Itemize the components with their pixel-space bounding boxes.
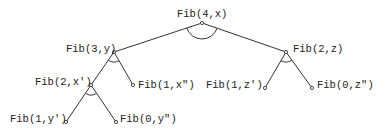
edge-n3-n7 [66,85,91,122]
tree-svg: Fib(4,x)Fib(3,y)Fib(2,z)Fib(2,x')Fib(1,x… [0,0,381,131]
node-dot-n0 [200,21,203,24]
node-dot-n6 [310,86,313,89]
node-label-n1: Fib(3,y) [66,43,116,55]
edges [66,23,312,122]
node-label-n4: Fib(1,x") [138,79,195,91]
edge-n3-n8 [91,85,116,122]
node-dot-n5 [263,86,266,89]
and-arc-n0 [187,28,217,39]
labels: Fib(4,x)Fib(3,y)Fib(2,z)Fib(2,x')Fib(1,x… [10,8,374,125]
node-label-n8: Fib(0,y") [120,113,177,125]
edge-n1-n4 [114,52,133,85]
node-dot-n8 [114,120,117,123]
edge-n0-n1 [114,23,202,52]
node-label-n3: Fib(2,x') [35,76,92,88]
and-arc-n1 [108,60,119,62]
and-arc-n2 [281,60,292,62]
node-label-n7: Fib(1,y') [10,113,67,125]
edge-n0-n2 [202,23,286,52]
node-dot-n4 [131,83,134,86]
node-label-n2: Fib(2,z) [293,43,343,55]
edge-n2-n6 [286,52,312,88]
and-arc-n3 [85,93,96,95]
and-or-tree-diagram: Fib(4,x)Fib(3,y)Fib(2,z)Fib(2,x')Fib(1,x… [0,0,381,131]
edge-n1-n3 [91,52,114,85]
nodes [64,21,313,123]
node-label-n0: Fib(4,x) [177,8,227,20]
node-dot-n2 [284,50,287,53]
node-label-n6: Fib(0,z") [317,79,374,91]
node-label-n5: Fib(1,z') [206,79,263,91]
edge-n2-n5 [265,52,286,88]
